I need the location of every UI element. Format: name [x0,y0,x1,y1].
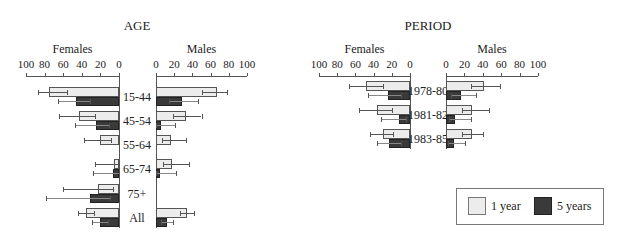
period-error-cap [489,108,490,113]
legend-label-5-years: 5 years [557,199,591,214]
period-error-cap [449,117,450,122]
age-female-tick-label: 40 [76,58,87,70]
period-error-cap [381,117,382,122]
age-male-tick [247,73,248,76]
age-female-tick-label: 80 [39,58,50,70]
age-error-cap [189,162,190,167]
age-error-cap [113,187,114,192]
period-error-cap [462,132,463,137]
age-error-cap [84,138,85,143]
age-male-error-bar [173,116,201,117]
age-error-cap [176,171,177,176]
age-error-cap [180,211,181,216]
age-error-cap [156,171,157,176]
period-error-cap [465,141,466,146]
age-error-cap [63,187,64,192]
period-female-error-bar [368,95,401,96]
period-female-tick-label: 60 [350,58,361,70]
age-female-tick-label: 60 [58,58,69,70]
age-error-cap [110,196,111,201]
age-male-tick-label: 40 [187,58,198,70]
age-error-cap [38,90,39,95]
period-male-tick-label: 40 [477,58,488,70]
period-error-cap [476,93,477,98]
period-error-cap [370,132,371,137]
period-error-cap [383,84,384,89]
period-error-cap [377,141,378,146]
period-error-cap [471,84,472,89]
period-female-tick-label: 80 [332,58,343,70]
legend-label-1-year: 1 year [491,199,521,214]
age-male-tick-label: 60 [205,58,216,70]
age-error-cap [95,114,96,119]
period-female-error-bar [381,119,406,120]
period-female-error-bar [377,143,401,144]
period-error-cap [448,141,449,146]
period-male-error-bar [449,119,471,120]
age-female-error-bar [75,125,108,126]
period-female-tick-label: 40 [368,58,379,70]
age-male-tick-label: 0 [153,58,159,70]
period-error-cap [406,117,407,122]
age-female-error-bar [84,140,111,141]
period-male-error-bar [471,86,500,87]
period-error-cap [500,84,501,89]
period-female-error-bar [359,110,392,111]
age-error-cap [75,123,76,128]
age-error-cap [227,90,228,95]
age-female-error-bar [38,92,67,93]
period-males-label: Males [442,42,542,57]
period-male-tick-label: 100 [530,58,547,70]
age-error-cap [198,99,199,104]
age-female-error-bar [92,222,108,223]
period-male-error-bar [451,95,477,96]
age-female-error-bar [59,116,94,117]
period-male-error-bar [462,110,490,111]
period-male-tick-label: 20 [459,58,470,70]
period-female-axis [319,76,410,77]
age-female-error-bar [93,173,119,174]
age-males-label: Males [152,42,252,57]
age-male-tick-label: 80 [223,58,234,70]
age-error-cap [67,90,68,95]
period-male-tick [538,73,539,76]
period-error-cap [401,93,402,98]
age-male-error-bar [161,222,173,223]
age-error-cap [173,220,174,225]
age-error-cap [58,99,59,104]
period-female-tick-label: 100 [311,58,328,70]
legend-swatch-1-year [468,197,486,215]
period-error-cap [392,108,393,113]
age-error-cap [109,123,110,128]
period-male-tick-label: 60 [496,58,507,70]
age-female-error-bar [63,189,113,190]
age-error-cap [194,211,195,216]
age-error-cap [46,196,47,201]
age-female-error-bar [95,164,119,165]
age-female-tick-label: 20 [95,58,106,70]
age-female-tick-label: 100 [18,58,35,70]
age-error-cap [92,220,93,225]
age-male-error-bar [180,213,195,214]
age-male-error-bar [162,140,186,141]
age-error-cap [78,211,79,216]
age-error-cap [156,123,157,128]
period-error-cap [401,141,402,146]
period-female-tick-label: 20 [386,58,397,70]
age-error-cap [162,138,163,143]
age-error-cap [94,211,95,216]
period-error-cap [462,108,463,113]
age-male-error-bar [169,101,198,102]
age-error-cap [111,138,112,143]
age-error-cap [186,138,187,143]
age-male-axis [156,76,247,77]
age-error-cap [202,90,203,95]
age-error-cap [119,171,120,176]
age-female-error-bar [46,198,109,199]
age-error-cap [169,99,170,104]
age-male-tick-label: 20 [169,58,180,70]
period-female-tick-label: 0 [407,58,413,70]
period-error-cap [451,93,452,98]
period-error-cap [471,117,472,122]
age-error-cap [202,114,203,119]
